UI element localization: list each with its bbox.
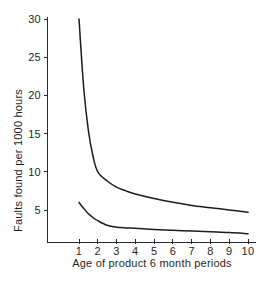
y-tick-label-20: 20 (28, 89, 41, 101)
x-axis: 12345678910 (48, 239, 257, 257)
x-tick-label-9: 9 (226, 245, 232, 257)
y-axis-title: Faults found per 1000 hours (12, 89, 24, 232)
curve-upper-curve (79, 19, 248, 212)
x-tick-label-2: 2 (95, 245, 101, 257)
x-axis-tick-labels: 12345678910 (76, 245, 255, 257)
x-tick-label-8: 8 (207, 245, 213, 257)
y-tick-label-10: 10 (28, 166, 41, 178)
curve-lower-curve (79, 202, 248, 233)
data-curves (79, 19, 248, 234)
x-tick-label-10: 10 (242, 245, 255, 257)
y-tick-label-30: 30 (28, 13, 41, 25)
x-axis-ticks (79, 239, 248, 244)
y-tick-label-5: 5 (35, 204, 41, 216)
x-tick-label-4: 4 (132, 245, 138, 257)
x-tick-label-5: 5 (151, 245, 157, 257)
x-tick-label-6: 6 (170, 245, 176, 257)
fault-rate-line-chart: 51015202530 12345678910 Faults found per… (0, 0, 262, 287)
y-axis-tick-labels: 51015202530 (28, 13, 41, 216)
x-axis-title: Age of product 6 month periods (72, 257, 232, 269)
y-tick-label-15: 15 (28, 128, 41, 140)
y-axis: 51015202530 (28, 13, 48, 243)
x-tick-label-7: 7 (188, 245, 194, 257)
y-tick-label-25: 25 (28, 51, 41, 63)
x-tick-label-3: 3 (113, 245, 119, 257)
chart-canvas: 51015202530 12345678910 Faults found per… (0, 0, 262, 287)
x-tick-label-1: 1 (76, 245, 82, 257)
